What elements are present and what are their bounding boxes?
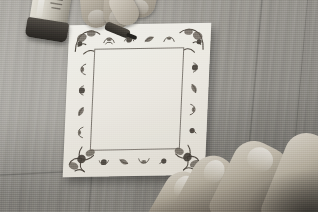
photograph <box>0 0 318 212</box>
film-grain-overlay <box>0 0 318 212</box>
photo-frame: Hand decorating a square paper sheet wit… <box>0 0 325 224</box>
